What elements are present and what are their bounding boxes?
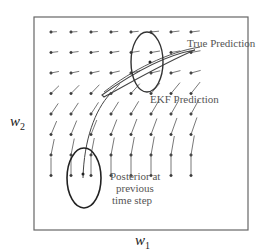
field-point [150,51,152,53]
field-point [130,92,132,94]
x-axis-sub: 1 [145,240,150,251]
field-point [90,31,92,33]
field-point [110,133,112,135]
field-vector [71,139,74,155]
ekf-mean-dot [149,61,152,64]
y-axis-var: w [10,113,20,129]
field-point [90,113,92,115]
field-point [110,72,112,74]
field-vector [71,85,79,93]
field-point [90,133,92,135]
field-point [170,72,172,74]
posterior-ellipse [67,148,101,208]
field-point [110,51,112,53]
posterior-label-line2: previous [116,182,154,194]
field-vector [191,117,197,134]
field-vector [171,83,180,94]
field-point [90,72,92,74]
field-point [50,154,52,156]
posterior-label-line3: time step [112,194,152,206]
field-point [50,133,52,135]
x-axis-var: w [135,232,145,248]
field-vector [91,85,99,94]
ekf-prediction-label: EKF Prediction [150,93,219,105]
field-vector [51,86,59,94]
field-point [50,72,52,74]
field-point [150,113,152,115]
field-vector [51,103,58,114]
field-vector [111,138,114,155]
field-vector [151,137,154,155]
field-point [90,92,92,94]
field-vector [131,101,139,114]
field-point [170,174,172,176]
y-axis-sub: 2 [20,121,25,132]
field-vector [131,84,140,94]
y-axis-label: w2 [10,113,25,132]
field-vector [191,135,194,155]
field-vector [51,121,57,134]
field-vector [111,120,117,135]
field-point [70,113,72,115]
trajectory-curve [83,94,110,178]
field-vector [71,103,78,114]
field-point [190,72,192,74]
field-point [170,133,172,135]
field-point [190,31,192,33]
field-point [50,31,52,33]
field-point [130,133,132,135]
field-point [130,113,132,115]
field-point [70,31,72,33]
field-point [50,51,52,53]
field-vector [171,118,177,135]
field-point [190,113,192,115]
field-point [70,174,72,176]
field-point [50,92,52,94]
field-point [130,31,132,33]
field-point [170,51,172,53]
field-vector [151,118,157,134]
true-prediction-label: True Prediction [187,37,255,49]
field-point [70,72,72,74]
field-point [170,31,172,33]
posterior-label-line1: Posterior at [110,170,160,182]
field-point [90,51,92,53]
field-point [190,174,192,176]
field-point [90,154,92,156]
field-point [170,113,172,115]
field-vector [131,137,134,155]
field-point [50,113,52,115]
field-vector [71,121,77,135]
diagram-root: True Prediction EKF Prediction Posterior… [0,0,262,252]
field-point [110,154,112,156]
field-point [190,133,192,135]
field-point [70,92,72,94]
field-point [110,31,112,33]
field-point [90,174,92,176]
field-vector [111,102,119,114]
field-point [50,174,52,176]
field-vector [51,139,54,155]
field-point [110,113,112,115]
field-vector [171,136,174,155]
field-vector [191,82,200,93]
field-vector [131,119,137,134]
true-prediction-shape [102,50,195,97]
field-point [70,133,72,135]
field-point [70,51,72,53]
field-point [150,133,152,135]
x-axis-label: w1 [135,232,150,251]
posterior-mean-dot [82,173,85,176]
